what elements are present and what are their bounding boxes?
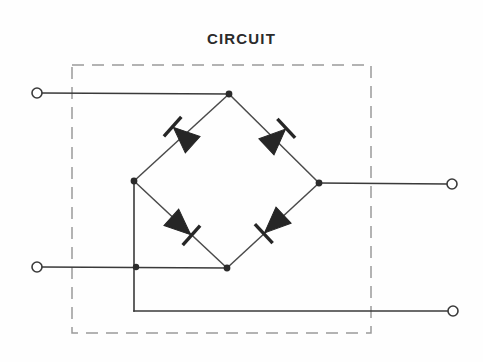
circuit-diagram: CIRCUIT — [0, 0, 483, 362]
circuit-boundary-dashed-rect — [72, 65, 371, 333]
input-terminal-bottom-left[interactable] — [32, 262, 42, 272]
bridge-node-bottom — [224, 265, 231, 272]
circuit-schematic-canvas — [0, 0, 483, 362]
wire-right-output — [319, 183, 447, 184]
input-terminal-top-left[interactable] — [32, 88, 42, 98]
bridge-node-top — [226, 91, 233, 98]
output-terminal-bottom-right[interactable] — [448, 306, 458, 316]
diode-top-right-triangle — [259, 121, 293, 155]
wire-top-input — [42, 93, 229, 94]
output-terminal-right[interactable] — [447, 179, 457, 189]
diode-top-right — [258, 119, 295, 156]
bridge-node-left — [131, 178, 138, 185]
junction-bottom-left-rail — [133, 264, 139, 270]
bridge-node-right — [316, 180, 323, 187]
